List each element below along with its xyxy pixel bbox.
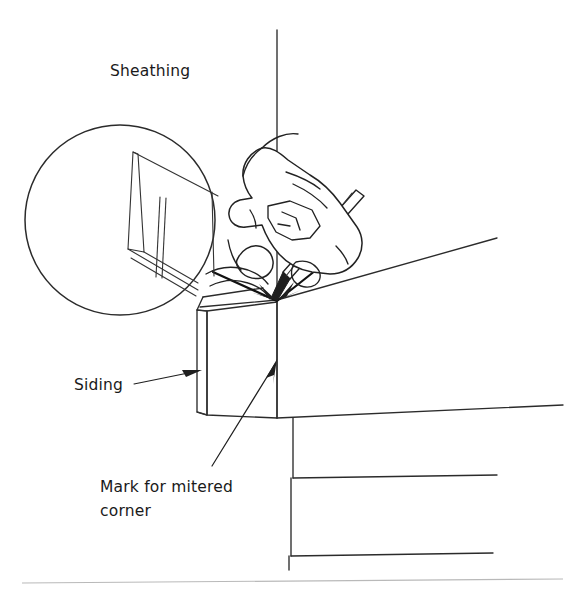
label-mark-line-1: Mark for mitered (100, 478, 233, 496)
label-mark-line-2: corner (100, 502, 151, 520)
label-sheathing: Sheathing (110, 62, 190, 80)
detail-inset-circle (25, 125, 215, 315)
illustration-canvas: Sheathing Siding Mark for mitered corner (0, 0, 567, 599)
label-siding: Siding (74, 376, 123, 394)
illustration-figure: Sheathing Siding Mark for mitered corner (0, 0, 567, 599)
